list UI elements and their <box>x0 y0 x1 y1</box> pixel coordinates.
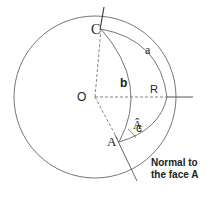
arc-c <box>119 97 167 142</box>
radius-oc <box>95 29 101 97</box>
label-a-vertex: A <box>107 134 117 149</box>
normal-caption-line1: Normal to <box>151 157 198 168</box>
normal-c-line <box>100 7 104 30</box>
label-b-side: b <box>120 76 127 90</box>
normal-a-line <box>115 135 137 181</box>
normal-caption-line2: the face A <box>151 169 198 180</box>
label-c: C <box>91 22 100 37</box>
spherical-triangle-diagram: C O a b R c Â A Normal to the face A <box>0 0 210 198</box>
label-r: R <box>150 83 158 95</box>
label-a-side: a <box>145 43 151 57</box>
label-angle-a: Â <box>133 118 142 132</box>
label-o: O <box>77 90 86 104</box>
